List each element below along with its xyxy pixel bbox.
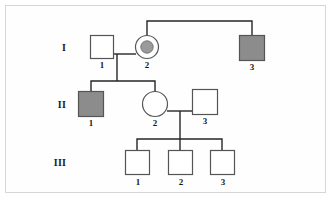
- individual-label-III-2: 2: [171, 177, 191, 187]
- individual-label-II-1: 1: [81, 118, 101, 128]
- individual-III-1-square[interactable]: [126, 151, 150, 175]
- individual-label-II-2: 2: [145, 118, 165, 128]
- individual-label-I-1: 1: [92, 60, 112, 70]
- individual-symbols: [79, 36, 265, 175]
- individual-label-I-3: 3: [242, 62, 262, 72]
- individual-II-1-square[interactable]: [79, 92, 104, 117]
- sibship-line-gen2: [91, 81, 155, 92]
- individual-label-II-3: 3: [195, 116, 215, 126]
- individual-label-III-1: 1: [128, 177, 148, 187]
- individual-I-2-carrier-dot: [141, 41, 153, 53]
- individual-III-2-square[interactable]: [169, 151, 193, 175]
- connection-lines: [91, 21, 252, 151]
- individual-III-3-square[interactable]: [211, 151, 235, 175]
- individual-I-1-square[interactable]: [91, 36, 114, 59]
- pedigree-figure: I II III 1 2 3 1 2 3 1 2 3: [0, 0, 333, 202]
- individual-I-3-square[interactable]: [240, 36, 265, 61]
- individual-label-I-2: 2: [137, 60, 157, 70]
- generation-label-3: III: [48, 157, 72, 168]
- individual-label-III-3: 3: [213, 177, 233, 187]
- individual-II-2-circle[interactable]: [143, 92, 168, 117]
- generation-label-1: I: [52, 42, 76, 53]
- individual-II-3-square[interactable]: [193, 90, 218, 115]
- generation-label-2: II: [50, 99, 74, 110]
- sibship-line-gen1: [147, 21, 252, 36]
